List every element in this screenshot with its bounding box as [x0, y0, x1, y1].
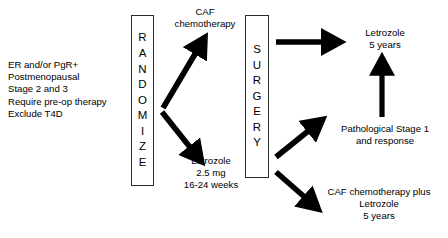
arm-line: chemotherapy — [175, 18, 236, 29]
randomize-letter: A — [139, 46, 147, 62]
eligibility-criterion: Exclude T4D — [8, 108, 107, 120]
outcome-line: CAF chemotherapy plus — [328, 186, 431, 197]
outcome-caf-plus-letrozole: CAF chemotherapy plus Letrozole 5 years — [313, 186, 445, 223]
surgery-letter: R — [253, 120, 261, 136]
eligibility-criterion: Stage 2 and 3 — [8, 83, 107, 95]
arrow-surgery-to-pathological-stage — [276, 128, 312, 157]
arm-line: CAF — [195, 6, 214, 17]
randomize-letter: I — [141, 124, 144, 140]
outcome-line: and response — [356, 135, 414, 146]
trial-schema-diagram: ER and/or PgR+ Postmenopausal Stage 2 an… — [0, 0, 448, 238]
randomize-letter: O — [138, 93, 147, 109]
outcome-line: Pathological Stage 1 — [341, 123, 429, 134]
arrow-randomize-to-letrozole — [162, 112, 193, 151]
outcome-pathological-stage: Pathological Stage 1 and response — [323, 123, 447, 147]
arm-line: 16-24 weeks — [184, 179, 238, 190]
outcome-line: 5 years — [363, 210, 394, 221]
randomize-box: R A N D O M I Z E — [131, 15, 154, 186]
randomize-letter: E — [139, 155, 147, 171]
surgery-letter: U — [253, 58, 261, 74]
arm-line: Letrozole — [191, 155, 230, 166]
surgery-letter: R — [253, 73, 261, 89]
surgery-letter: E — [253, 104, 261, 120]
arm-label-letrozole-neoadjuvant: Letrozole 2.5 mg 16-24 weeks — [171, 155, 251, 192]
eligibility-criterion: ER and/or PgR+ — [8, 59, 107, 71]
randomize-letter: R — [138, 30, 146, 46]
arrow-randomize-to-caf-chemo — [163, 49, 198, 108]
arm-line: 2.5 mg — [196, 167, 225, 178]
randomize-letter: Z — [139, 139, 146, 155]
surgery-letter: G — [253, 89, 262, 105]
arm-label-caf-chemotherapy: CAF chemotherapy — [168, 6, 242, 30]
arrow-surgery-to-caf-plus-letrozole — [276, 172, 308, 200]
eligibility-criteria: ER and/or PgR+ Postmenopausal Stage 2 an… — [8, 59, 107, 120]
surgery-letter: Y — [253, 135, 261, 151]
eligibility-criterion: Require pre-op therapy — [8, 96, 107, 108]
randomize-letter: M — [138, 108, 148, 124]
surgery-letter: S — [253, 42, 261, 58]
randomize-letter: N — [138, 62, 146, 78]
eligibility-criterion: Postmenopausal — [8, 71, 107, 83]
randomize-letter: D — [138, 77, 146, 93]
outcome-letrozole-five-years: Letrozole 5 years — [348, 27, 422, 51]
outcome-line: Letrozole — [359, 198, 398, 209]
outcome-line: Letrozole — [365, 27, 404, 38]
outcome-line: 5 years — [369, 39, 400, 50]
surgery-box: S U R G E R Y — [245, 15, 269, 178]
